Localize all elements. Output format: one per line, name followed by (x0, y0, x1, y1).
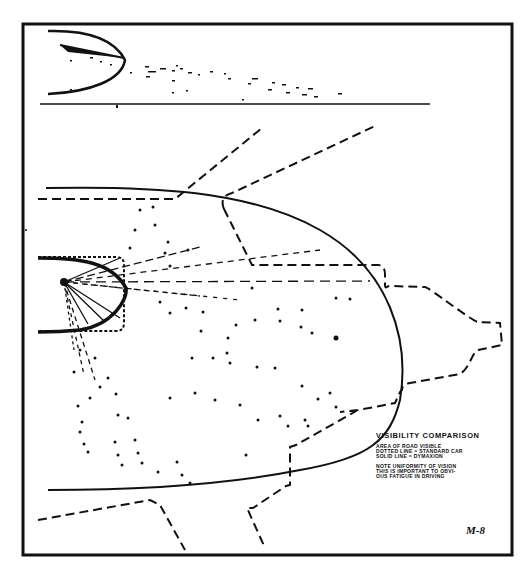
side-view-panel (40, 31, 430, 108)
plan-view-panel (25, 126, 502, 550)
dymaxion-envelope-solid (46, 188, 402, 490)
standard-car-envelope-dashed (38, 126, 502, 550)
standard-car-window-box (38, 257, 124, 331)
plate-number: M-8 (466, 524, 485, 536)
visibility-diagram (0, 0, 529, 570)
driver-position-marker (60, 278, 68, 286)
legend-note-3: OUS FATIGUE IN DRIVING (376, 474, 516, 479)
plan-sight-dots (25, 206, 352, 485)
side-nose-outline (48, 31, 125, 94)
legend-title: VISIBILITY COMPARISON (376, 432, 516, 440)
side-sight-dots (70, 57, 342, 108)
legend-block: VISIBILITY COMPARISON AREA OF ROAD VISIB… (376, 432, 516, 479)
radial-sight-lines (64, 247, 370, 380)
